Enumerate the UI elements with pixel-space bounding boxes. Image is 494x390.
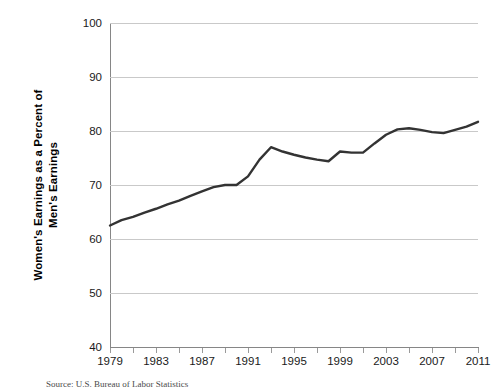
x-axis-tick (432, 348, 433, 353)
x-axis-tick (179, 348, 180, 353)
x-axis-tick (409, 348, 410, 353)
y-axis-tick-label: 80 (62, 125, 102, 137)
y-axis-tick-label: 90 (62, 71, 102, 83)
x-axis-tick (248, 348, 249, 353)
x-axis-tick-label: 2011 (455, 355, 494, 368)
y-axis-tick-labels: 405060708090100 (58, 0, 102, 390)
gridline (110, 131, 478, 132)
chart-figure: Women's Earnings as a Percent ofMen's Ea… (0, 0, 494, 390)
x-axis-tick-label: 2003 (363, 355, 409, 368)
x-axis-tick (294, 348, 295, 353)
x-axis-tick-label: 1995 (271, 355, 317, 368)
gridline (110, 23, 478, 24)
x-axis-tick (202, 348, 203, 353)
gridline (110, 239, 478, 240)
y-axis-tick-label: 70 (62, 179, 102, 191)
x-axis-tick (478, 348, 479, 353)
gridline (110, 185, 478, 186)
x-axis-tick (363, 348, 364, 353)
x-axis-tick (386, 348, 387, 353)
y-axis-tick-label: 40 (62, 341, 102, 353)
x-axis-tick-label: 1999 (317, 355, 363, 368)
source-note: Source: U.S. Bureau of Labor Statistics (46, 379, 188, 389)
x-axis-tick (225, 348, 226, 353)
gridline (110, 77, 478, 78)
x-axis-tick (455, 348, 456, 353)
x-axis-tick-label: 2007 (409, 355, 455, 368)
x-axis-tick (317, 348, 318, 353)
y-axis-title-line-1: Women's Earnings as a Percent of (31, 35, 46, 335)
x-axis-tick (133, 348, 134, 353)
x-axis-tick-label: 1987 (179, 355, 225, 368)
y-axis-tick-label: 60 (62, 233, 102, 245)
x-axis-tick-label: 1991 (225, 355, 271, 368)
x-axis-tick (110, 348, 111, 353)
x-axis-tick (271, 348, 272, 353)
y-axis-tick-label: 50 (62, 287, 102, 299)
y-axis-tick-label: 100 (62, 17, 102, 29)
y-axis-title: Women's Earnings as a Percent ofMen's Ea… (31, 35, 61, 335)
x-axis-tick-label: 1983 (133, 355, 179, 368)
plot-area (110, 23, 478, 347)
gridline (110, 293, 478, 294)
x-axis-tick (340, 348, 341, 353)
x-axis-tick (156, 348, 157, 353)
x-axis-tick-label: 1979 (87, 355, 133, 368)
